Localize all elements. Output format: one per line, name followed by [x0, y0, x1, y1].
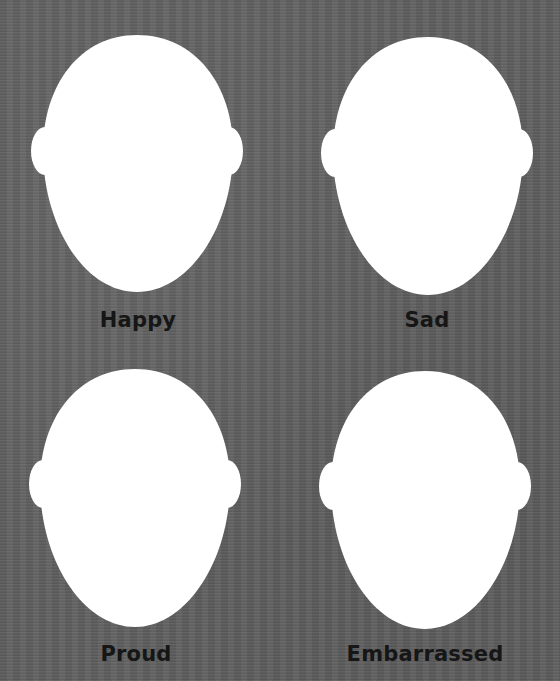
- blank-face-icon: [0, 340, 280, 681]
- face-card-embarrassed: Embarrassed: [280, 340, 560, 681]
- emotion-label: Proud: [100, 642, 171, 666]
- blank-face-icon: [0, 0, 280, 340]
- blank-face-icon: [280, 0, 560, 340]
- emotion-label: Happy: [100, 308, 177, 332]
- blank-face-icon: [280, 340, 560, 681]
- face-card-happy: Happy: [0, 0, 280, 340]
- face-card-proud: Proud: [0, 340, 280, 681]
- emotion-label: Sad: [405, 308, 450, 332]
- emotion-label: Embarrassed: [347, 642, 504, 666]
- face-card-sad: Sad: [280, 0, 560, 340]
